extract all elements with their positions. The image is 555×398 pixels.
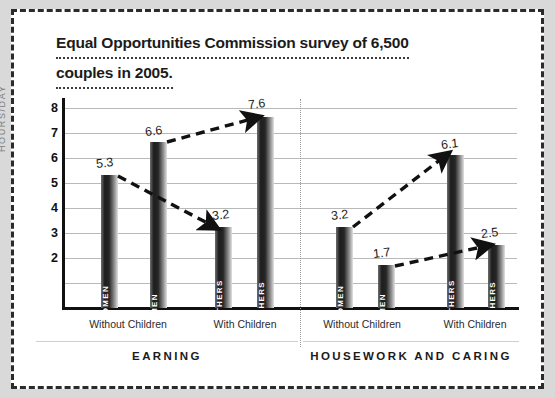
bar-label-men: MEN — [150, 293, 159, 315]
y-axis-spine — [62, 98, 65, 310]
bar-housework-men: MEN — [378, 265, 395, 308]
gridline-8 — [62, 108, 517, 109]
chart-title: Equal Opportunities Commission survey of… — [56, 29, 486, 89]
section-label-earning: EARNING — [36, 350, 298, 362]
gridline-7 — [62, 133, 517, 134]
bar-value-housework-fathers: 2.5 — [480, 225, 499, 241]
chart-title-line-2: couples in 2005. — [56, 59, 173, 89]
x-category-earning-with: With Children — [190, 318, 300, 330]
chart-title-line-1: Equal Opportunities Commission survey of… — [56, 29, 409, 59]
y-tick-6: 6 — [36, 151, 58, 165]
bar-earning-women: WOMEN — [101, 175, 118, 308]
bar-value-earning-women: 5.3 — [95, 155, 114, 171]
bar-housework-women: WOMEN — [336, 227, 353, 308]
bar-value-earning-mothers: 3.2 — [211, 207, 230, 223]
bar-housework-mothers: MOTHERS — [447, 155, 464, 308]
x-category-housework-without: Without Children — [307, 318, 417, 330]
y-tick-4: 4 — [36, 201, 58, 215]
bar-housework-fathers: FATHERS — [488, 245, 505, 308]
bar-value-housework-men: 1.7 — [372, 245, 391, 261]
y-axis-title: HOURS/DAY — [0, 85, 7, 152]
bar-value-earning-men: 6.6 — [144, 123, 163, 139]
bar-earning-mothers: MOTHERS — [215, 227, 232, 308]
y-tick-7: 7 — [36, 126, 58, 140]
y-tick-2: 2 — [36, 251, 58, 265]
y-tick-5: 5 — [36, 176, 58, 190]
x-category-earning-without: Without Children — [73, 318, 183, 330]
section-rule-earning — [36, 341, 298, 342]
bar-earning-fathers: FATHERS — [257, 117, 274, 308]
section-rule-housework — [303, 341, 519, 342]
y-tick-8: 8 — [36, 101, 58, 115]
chart-card: Equal Opportunities Commission survey of… — [11, 9, 544, 389]
y-tick-3: 3 — [36, 226, 58, 240]
bar-value-earning-fathers: 7.6 — [247, 96, 266, 112]
panel-divider — [300, 99, 301, 347]
bar-value-housework-mothers: 6.1 — [440, 136, 459, 152]
bar-label-men: MEN — [378, 293, 387, 315]
bar-earning-men: MEN — [150, 142, 167, 308]
x-category-housework-with: With Children — [420, 318, 530, 330]
section-label-housework: HOUSEWORK AND CARING — [303, 350, 519, 362]
bar-value-housework-women: 3.2 — [330, 207, 349, 223]
